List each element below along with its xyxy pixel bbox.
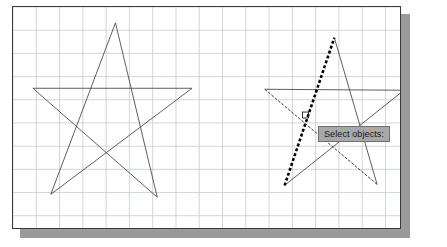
cad-drawing-canvas[interactable] [12, 6, 401, 229]
geometry-line-e1[interactable] [115, 23, 157, 197]
star-left[interactable] [33, 23, 192, 197]
geometry-line-e4[interactable] [51, 88, 192, 194]
geometry-line-e3[interactable] [265, 89, 400, 90]
drawing-geometry[interactable] [13, 7, 400, 228]
screenshot-root: Select objects: [0, 0, 447, 247]
select-objects-prompt: Select objects: [318, 126, 390, 142]
geometry-line-e5[interactable] [285, 38, 335, 186]
geometry-line-e2[interactable] [33, 88, 157, 197]
geometry-line-e5[interactable] [51, 23, 116, 194]
star-right[interactable] [265, 38, 400, 186]
geometry-line-e1[interactable] [334, 38, 377, 185]
select-objects-prompt-label: Select objects: [324, 130, 384, 139]
